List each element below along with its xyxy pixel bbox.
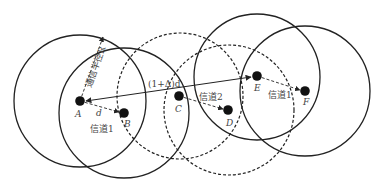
channel-label-cd: 信道2	[199, 91, 223, 102]
node-label-b: B	[123, 119, 131, 129]
node-c	[174, 91, 184, 101]
node-label-a: A	[74, 109, 82, 119]
node-b	[119, 108, 129, 118]
channel-label-ef: 信道1	[268, 89, 292, 100]
node-d	[223, 105, 233, 115]
node-label-c: C	[175, 104, 182, 114]
figure-caption	[100, 174, 300, 185]
node-label-d: D	[225, 118, 233, 128]
node-label-f: F	[302, 97, 310, 107]
node-label-e: E	[253, 83, 261, 93]
long-hop-label: (1+Δ)d	[148, 79, 181, 89]
link-e-f	[257, 76, 300, 90]
node-f	[300, 86, 310, 96]
diagram-canvas: 通信半径R d (1+Δ)d 信道1 信道2 信道1 A B C D E F	[0, 0, 386, 185]
distance-label: d	[96, 108, 102, 118]
node-a	[75, 96, 85, 106]
radius-label: 通信半径R	[83, 45, 108, 89]
node-e	[252, 71, 262, 81]
channel-label-ab: 信道1	[90, 123, 114, 134]
